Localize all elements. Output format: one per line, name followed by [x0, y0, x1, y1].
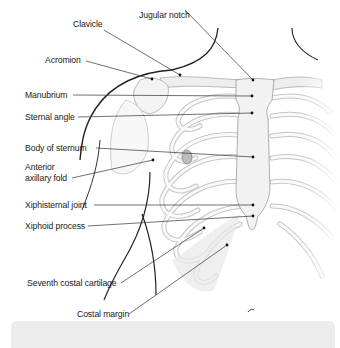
label-seventh-costal-cartilage: Seventh costal cartilage	[27, 277, 117, 288]
chest-landmarks-diagram: Clavicle Jugular notch Acromion Manubriu…	[0, 0, 340, 348]
label-sternal-angle: Sternal angle	[25, 111, 75, 122]
label-anterior-axillary-fold: Anterior axillary fold	[25, 161, 67, 183]
label-xiphisternal-joint: Xiphisternal joint	[25, 199, 87, 210]
label-body-of-sternum: Body of sternum	[25, 142, 87, 153]
label-manubrium: Manubrium	[25, 89, 67, 100]
label-xiphoid-process: Xiphoid process	[25, 220, 85, 231]
label-clavicle: Clavicle	[73, 18, 103, 29]
label-acromion: Acromion	[45, 54, 81, 65]
label-jugular-notch: Jugular notch	[139, 9, 190, 20]
caption-bar	[11, 321, 335, 348]
label-costal-margin: Costal margin	[77, 308, 129, 319]
